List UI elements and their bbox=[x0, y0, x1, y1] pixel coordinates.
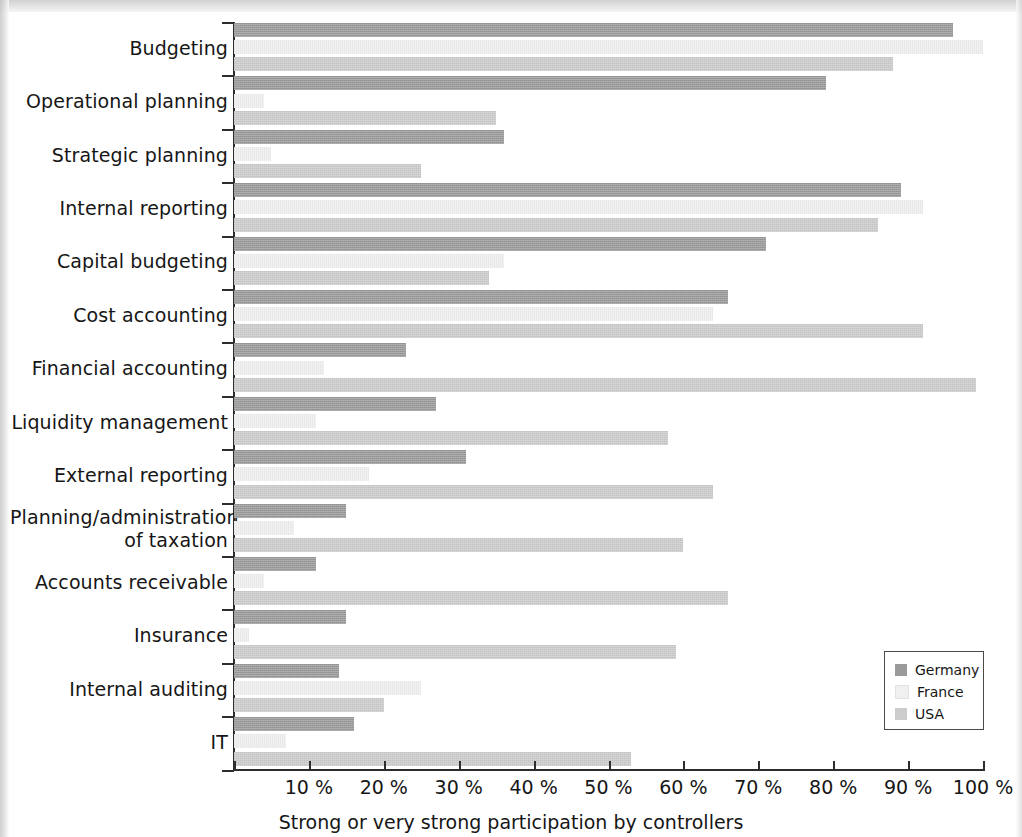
y-axis-category-label: Accounts receivable bbox=[10, 571, 228, 593]
x-axis-tick bbox=[833, 761, 835, 771]
x-axis-tick bbox=[459, 761, 461, 771]
y-axis-category-label: Planning/administrationof taxation bbox=[10, 506, 228, 551]
bar-france bbox=[234, 94, 264, 108]
y-axis-category-label: Cost accounting bbox=[10, 304, 228, 326]
bar-usa bbox=[234, 218, 878, 232]
x-axis-tick-label: 20 % bbox=[360, 776, 408, 798]
x-axis-tick-label: 60 % bbox=[659, 776, 707, 798]
chart-legend: Germany France USA bbox=[884, 651, 984, 730]
x-axis-tick bbox=[908, 761, 910, 771]
bar-germany bbox=[234, 183, 901, 197]
y-axis-category-label: Liquidity management bbox=[10, 411, 228, 433]
bar-france bbox=[234, 414, 316, 428]
y-axis-category-label: IT bbox=[10, 731, 228, 753]
bar-group bbox=[234, 609, 983, 662]
bar-group bbox=[234, 503, 983, 556]
y-axis-category-label: Capital budgeting bbox=[10, 250, 228, 272]
bar-france bbox=[234, 574, 264, 588]
legend-label-france: France bbox=[917, 684, 964, 700]
x-axis-tick bbox=[609, 761, 611, 771]
bar-group bbox=[234, 663, 983, 716]
x-axis-title: Strong or very strong participation by c… bbox=[0, 811, 1022, 833]
bar-usa bbox=[234, 698, 384, 712]
bar-group bbox=[234, 22, 983, 75]
x-axis-tick bbox=[683, 761, 685, 771]
legend-swatch-germany bbox=[895, 664, 907, 676]
x-axis-tick bbox=[534, 761, 536, 771]
y-axis-label-group: BudgetingOperational planningStrategic p… bbox=[0, 0, 228, 837]
bar-germany bbox=[234, 664, 339, 678]
x-axis-tick bbox=[309, 761, 311, 771]
bar-usa bbox=[234, 324, 923, 338]
bar-group bbox=[234, 396, 983, 449]
bar-group bbox=[234, 342, 983, 395]
y-axis-category-label: Internal reporting bbox=[10, 197, 228, 219]
bar-france bbox=[234, 734, 286, 748]
bar-germany bbox=[234, 237, 766, 251]
bar-usa bbox=[234, 591, 728, 605]
bar-usa bbox=[234, 485, 713, 499]
bar-germany bbox=[234, 557, 316, 571]
bar-germany bbox=[234, 23, 953, 37]
x-axis-tick-label: 80 % bbox=[809, 776, 857, 798]
x-axis-tick-label: 90 % bbox=[884, 776, 932, 798]
bar-france bbox=[234, 200, 923, 214]
bar-group bbox=[234, 449, 983, 502]
x-axis-tick-origin bbox=[234, 761, 236, 771]
legend-label-usa: USA bbox=[915, 706, 944, 722]
bar-germany bbox=[234, 504, 346, 518]
bar-france bbox=[234, 254, 504, 268]
bar-group bbox=[234, 75, 983, 128]
legend-label-germany: Germany bbox=[915, 662, 979, 678]
bar-group bbox=[234, 289, 983, 342]
bar-france bbox=[234, 307, 713, 321]
y-axis-category-label: Financial accounting bbox=[10, 357, 228, 379]
x-axis-tick-label: 70 % bbox=[734, 776, 782, 798]
y-axis-category-label: Strategic planning bbox=[10, 144, 228, 166]
bar-group bbox=[234, 182, 983, 235]
legend-swatch-usa bbox=[895, 708, 907, 720]
bar-france bbox=[234, 361, 324, 375]
bar-usa bbox=[234, 752, 631, 766]
bar-germany bbox=[234, 397, 436, 411]
y-axis-category-label: External reporting bbox=[10, 464, 228, 486]
bar-group bbox=[234, 129, 983, 182]
x-axis-tick-label: 30 % bbox=[435, 776, 483, 798]
bar-france bbox=[234, 467, 369, 481]
bar-germany bbox=[234, 130, 504, 144]
bar-usa bbox=[234, 164, 421, 178]
legend-item-usa[interactable]: USA bbox=[895, 703, 983, 725]
bar-usa bbox=[234, 378, 976, 392]
bar-france bbox=[234, 681, 421, 695]
bar-usa bbox=[234, 538, 683, 552]
bar-usa bbox=[234, 271, 489, 285]
x-axis-tick-label: 50 % bbox=[584, 776, 632, 798]
bar-usa bbox=[234, 431, 668, 445]
bar-usa bbox=[234, 645, 676, 659]
bar-group bbox=[234, 236, 983, 289]
x-axis-tick bbox=[983, 761, 985, 771]
legend-swatch-france bbox=[895, 685, 909, 699]
bar-germany bbox=[234, 610, 346, 624]
x-axis-tick-label: 10 % bbox=[285, 776, 333, 798]
legend-item-germany[interactable]: Germany bbox=[895, 659, 983, 681]
plot-area bbox=[234, 22, 983, 770]
x-axis-tick-label: 100 % bbox=[953, 776, 1013, 798]
y-axis-category-label: Internal auditing bbox=[10, 678, 228, 700]
y-axis-category-label: Budgeting bbox=[10, 37, 228, 59]
legend-item-france[interactable]: France bbox=[895, 681, 983, 703]
horizontal-bar-chart: BudgetingOperational planningStrategic p… bbox=[0, 0, 1022, 837]
x-axis-tick-label: 40 % bbox=[509, 776, 557, 798]
y-axis-category-label: Operational planning bbox=[10, 90, 228, 112]
bar-france bbox=[234, 628, 249, 642]
x-axis-tick bbox=[384, 761, 386, 771]
bar-france bbox=[234, 40, 983, 54]
x-axis-tick bbox=[758, 761, 760, 771]
bar-germany bbox=[234, 450, 466, 464]
bar-usa bbox=[234, 57, 893, 71]
bar-germany bbox=[234, 717, 354, 731]
bar-germany bbox=[234, 76, 826, 90]
bar-germany bbox=[234, 290, 728, 304]
bar-france bbox=[234, 521, 294, 535]
bar-germany bbox=[234, 343, 406, 357]
